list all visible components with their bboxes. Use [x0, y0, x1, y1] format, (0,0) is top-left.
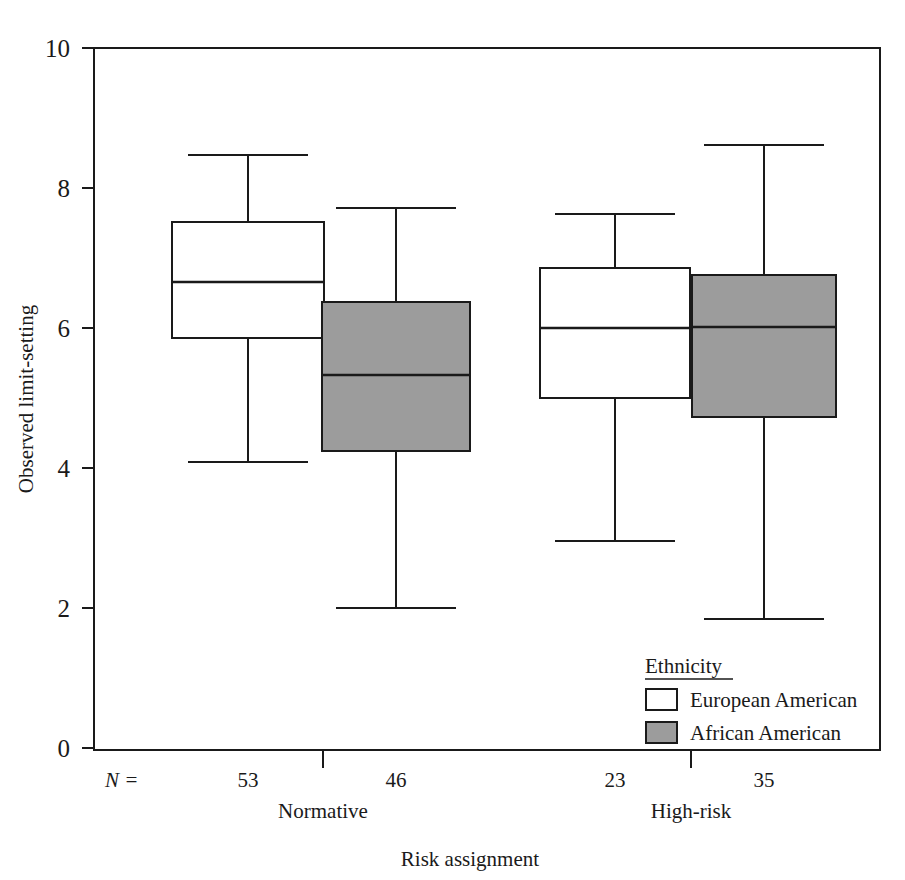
box-normative-european-american [172, 155, 324, 462]
group-label-normative: Normative [278, 799, 368, 823]
group-label-high-risk: High-risk [651, 799, 732, 823]
y-tick-label-8: 8 [58, 175, 71, 202]
boxplot-svg: 10 8 6 4 2 0 Observed limit-setting [0, 0, 905, 880]
box-body [692, 275, 836, 417]
box-body [322, 302, 470, 451]
n-value-high-risk-european: 23 [605, 768, 626, 792]
x-axis-title: Risk assignment [401, 847, 539, 871]
n-value-normative-european: 53 [238, 768, 259, 792]
n-prefix-label: N = [104, 768, 138, 792]
legend-title: Ethnicity [645, 654, 722, 678]
box-body [540, 268, 690, 398]
legend-swatch-european-american [646, 689, 677, 710]
legend: Ethnicity European American African Amer… [645, 654, 858, 745]
legend-label-european-american: European American [690, 688, 858, 712]
box-high-risk-african-american [692, 145, 836, 619]
y-axis-title: Observed limit-setting [14, 304, 38, 493]
box-body [172, 222, 324, 338]
boxplot-figure: 10 8 6 4 2 0 Observed limit-setting [0, 0, 905, 880]
legend-swatch-african-american [646, 722, 677, 743]
n-value-normative-african: 46 [386, 768, 407, 792]
y-axis-ticks [82, 48, 94, 748]
n-value-high-risk-african: 35 [754, 768, 775, 792]
n-row: N = 53 46 23 35 [104, 768, 775, 792]
legend-label-african-american: African American [690, 721, 842, 745]
y-axis-tick-labels: 10 8 6 4 2 0 [45, 35, 71, 762]
y-tick-label-2: 2 [58, 595, 71, 622]
box-high-risk-european-american [540, 214, 690, 541]
y-tick-label-4: 4 [58, 455, 71, 482]
y-tick-label-10: 10 [45, 35, 70, 62]
x-axis-ticks [323, 750, 691, 768]
box-normative-african-american [322, 208, 470, 608]
x-axis-group-labels: Normative High-risk [278, 799, 732, 823]
y-tick-label-6: 6 [58, 315, 71, 342]
y-tick-label-0: 0 [58, 735, 71, 762]
